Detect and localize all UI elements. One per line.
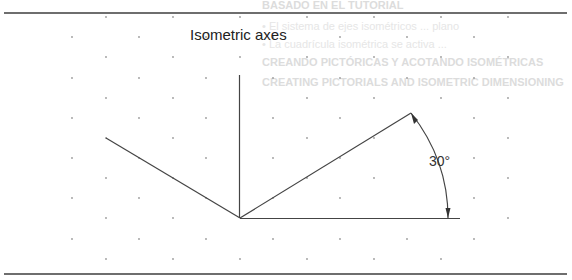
left-isometric-axis <box>106 138 240 218</box>
diagram-title: Isometric axes <box>190 26 287 43</box>
isometric-axes <box>106 75 460 219</box>
right-isometric-axis <box>240 113 411 218</box>
arrow-bottom-icon <box>446 208 451 218</box>
angle-label: 30° <box>429 153 450 169</box>
arrow-top-icon <box>411 113 418 124</box>
isometric-grid-dots <box>71 16 509 260</box>
